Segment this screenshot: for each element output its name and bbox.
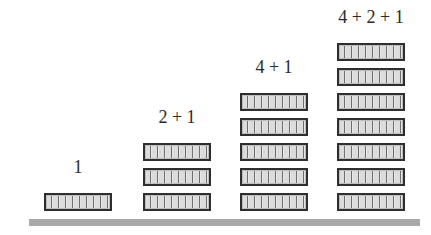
block — [337, 143, 405, 161]
block — [337, 68, 405, 86]
stack-label: 1 — [14, 157, 142, 178]
stack-label: 4 + 1 — [210, 57, 338, 78]
stack-label: 4 + 2 + 1 — [307, 7, 431, 28]
block — [337, 118, 405, 136]
block — [143, 193, 211, 211]
stack-3: 4 + 1 — [240, 0, 308, 235]
block — [337, 93, 405, 111]
block — [143, 168, 211, 186]
block — [240, 193, 308, 211]
block — [240, 118, 308, 136]
block — [337, 43, 405, 61]
stack-label: 2 + 1 — [113, 107, 241, 128]
block — [240, 168, 308, 186]
stack-4: 4 + 2 + 1 — [337, 0, 405, 235]
block-stack-diagram: 12 + 14 + 14 + 2 + 1 — [0, 0, 431, 235]
block — [337, 193, 405, 211]
block — [337, 168, 405, 186]
stack-2: 2 + 1 — [143, 0, 211, 235]
stack-1: 1 — [44, 0, 112, 235]
block — [240, 143, 308, 161]
block — [240, 93, 308, 111]
block — [143, 143, 211, 161]
block — [44, 193, 112, 211]
